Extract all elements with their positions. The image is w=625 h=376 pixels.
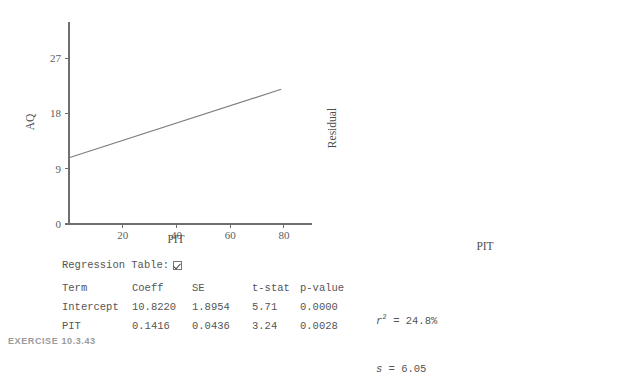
residual-x-axis-title: PIT [476,240,493,252]
scatter-y-tick-label: 0 [56,218,62,230]
cell-pvalue: 0.0028 [300,319,362,337]
regression-table: Term Coeff SE t-stat p-value Intercept 1… [62,281,362,337]
scatter-x-axis-title: PIT [167,233,184,245]
header-coeff: Coeff [132,281,192,300]
residual-plot-panel: PIT Residual [318,0,625,258]
cell-coeff: 0.1416 [132,319,192,337]
scatter-x-tick-label: 80 [278,229,290,241]
residual-y-axis-title: Residual [326,108,338,148]
table-row: PIT 0.1416 0.0436 3.24 0.0028 [62,319,362,337]
regression-table-block: Regression Table: Term Coeff SE t-stat p… [62,258,532,376]
header-pvalue: p-value [300,281,362,300]
scatter-fit-line [69,89,281,157]
r-squared-stat: r2 = 24.8% [376,312,437,332]
regression-table-toggle-label: Regression Table: [62,258,169,273]
scatter-regression-line [69,89,281,157]
scatter-plot-panel: 09182720406080 PIT AQ [0,0,320,258]
s-stat: s = 6.05 [376,362,437,376]
cell-se: 1.8954 [192,300,252,318]
table-header-row: Term Coeff SE t-stat p-value [62,281,362,300]
scatter-tick-labels: 09182720406080 [50,52,290,241]
regression-table-checkbox[interactable] [173,261,182,270]
table-row: Intercept 10.8220 1.8954 5.71 0.0000 [62,300,362,318]
s-value: = 6.05 [382,363,426,375]
cell-pvalue: 0.0000 [300,300,362,318]
regression-summary-stats: r2 = 24.8% s = 6.05 [376,281,437,376]
scatter-x-tick-label: 60 [225,229,237,241]
header-tstat: t-stat [252,281,300,300]
cell-coeff: 10.8220 [132,300,192,318]
scatter-y-tick-label: 9 [56,163,62,175]
scatter-y-axis-title: AQ [24,113,36,130]
cell-se: 0.0436 [192,319,252,337]
scatter-axes [69,22,312,224]
r-squared-value: = 24.8% [387,314,437,326]
scatter-y-tick-label: 27 [50,52,62,64]
scatter-y-tick-label: 18 [50,107,62,119]
cell-tstat: 3.24 [252,319,300,337]
header-se: SE [192,281,252,300]
exercise-caption: EXERCISE 10.3.43 [8,336,96,346]
cell-tstat: 5.71 [252,300,300,318]
scatter-tick-marks [65,59,284,228]
header-term: Term [62,281,132,300]
cell-term: PIT [62,319,132,337]
scatter-x-tick-label: 20 [117,229,129,241]
residual-plot-svg: PIT Residual [318,0,625,258]
cell-term: Intercept [62,300,132,318]
regression-table-wrap: Term Coeff SE t-stat p-value Intercept 1… [62,281,532,376]
scatter-plot-svg: 09182720406080 PIT AQ [0,0,320,258]
regression-table-toggle-row[interactable]: Regression Table: [62,258,532,273]
